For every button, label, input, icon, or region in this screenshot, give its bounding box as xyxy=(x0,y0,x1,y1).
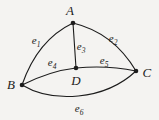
graph-vertex-dot-A xyxy=(71,21,76,26)
graph-edge-e1 xyxy=(22,23,73,85)
edge-label-subscript-e6: 6 xyxy=(80,107,84,116)
edge-label-e6: e6 xyxy=(75,103,84,114)
graph-vertex-dot-C xyxy=(134,69,139,74)
edge-label-e3: e3 xyxy=(77,41,86,52)
edge-label-subscript-e4: 4 xyxy=(53,61,57,70)
vertex-label-D: D xyxy=(71,74,81,87)
graph-vertex-dot-B xyxy=(20,83,25,88)
edge-label-e5: e5 xyxy=(100,55,109,66)
edge-label-e2: e2 xyxy=(109,33,118,44)
edge-label-subscript-e3: 3 xyxy=(82,45,86,54)
edge-label-subscript-e1: 1 xyxy=(37,39,41,48)
graph-diagram: ABCD e1e2e3e4e5e6 xyxy=(0,0,159,120)
graph-vertex-dot-D xyxy=(74,66,79,71)
vertex-label-A: A xyxy=(66,4,74,17)
vertex-label-B: B xyxy=(7,78,15,91)
edge-label-subscript-e2: 2 xyxy=(114,37,118,46)
edge-label-e4: e4 xyxy=(48,57,57,68)
graph-edge-e3 xyxy=(73,23,76,68)
edge-label-e1: e1 xyxy=(32,35,41,46)
graph-edge-e4 xyxy=(22,68,76,85)
vertex-label-C: C xyxy=(143,66,152,79)
edge-label-subscript-e5: 5 xyxy=(105,59,109,68)
